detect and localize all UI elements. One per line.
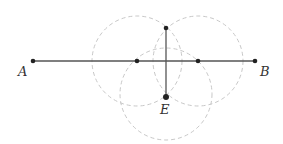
label-E: E bbox=[159, 102, 170, 117]
point-C bbox=[135, 59, 140, 64]
line-segments bbox=[33, 28, 255, 97]
point-A bbox=[31, 59, 36, 64]
point-E bbox=[163, 94, 169, 100]
construction-diagram: ABE bbox=[0, 0, 283, 144]
point-T bbox=[164, 26, 169, 31]
construction-circles bbox=[92, 16, 243, 140]
label-B: B bbox=[259, 64, 270, 79]
point-labels: ABE bbox=[17, 64, 270, 117]
point-D bbox=[196, 59, 201, 64]
points bbox=[31, 26, 258, 100]
label-A: A bbox=[17, 64, 27, 79]
point-B bbox=[253, 59, 258, 64]
